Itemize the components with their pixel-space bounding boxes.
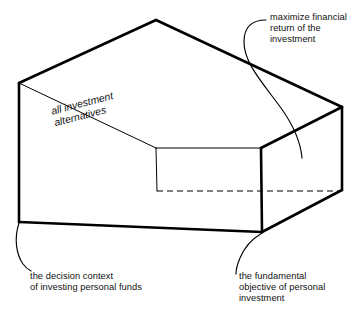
annotation-maximize-financial-return: maximize financial return of the investm… [270,12,347,46]
annotation-fundamental-objective: the fundamental objective of personal in… [239,271,325,305]
callout-leaders [16,20,302,274]
leader-fundamental-objective [236,233,262,274]
edge-bottom-left-to-right [19,222,262,232]
edge-right-face-front-vertical [261,148,262,232]
edge-right-face-bottom [262,190,342,232]
edge-apex-to-left-top [19,20,156,83]
leader-decision-context [16,223,31,271]
edge-inner-vertical [156,148,157,191]
edge-right-face-top [261,107,342,148]
diagram-canvas: maximize financial return of the investm… [0,0,355,325]
annotation-decision-context: the decision context of investing person… [30,271,142,293]
